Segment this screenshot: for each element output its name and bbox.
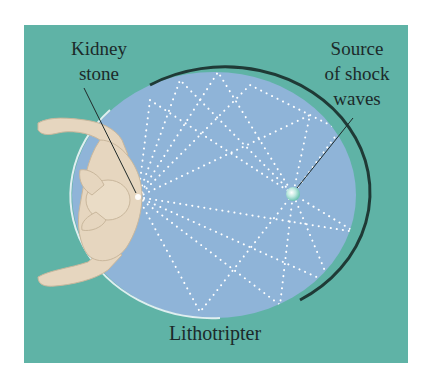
shock-source-label: Source of shock waves (302, 36, 412, 111)
kidney-stone (135, 194, 141, 200)
kidney-stone-label: Kidney stone (44, 36, 154, 86)
kidney-stone-label-line2: stone (44, 61, 154, 86)
lithotripter-label: Lithotripter (145, 321, 285, 346)
shock-source-label-line2: of shock (302, 61, 412, 86)
kidney-stone-label-line1: Kidney (44, 36, 154, 61)
shock-source-label-line3: waves (302, 86, 412, 111)
shock-wave-source (286, 187, 300, 201)
shock-source-label-line1: Source (302, 36, 412, 61)
